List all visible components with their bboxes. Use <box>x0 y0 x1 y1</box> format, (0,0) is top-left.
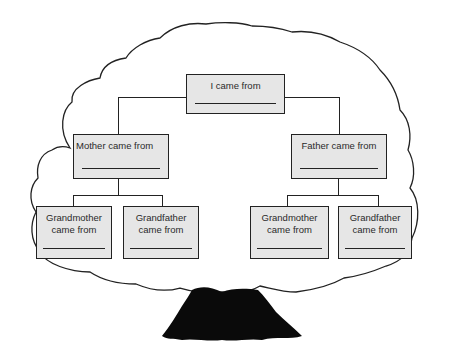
maternal-grandmother-label-1: Grandmother <box>37 207 111 224</box>
maternal-grandfather-label-2: came from <box>124 224 198 236</box>
paternal-grandfather-label-2: came from <box>339 224 411 236</box>
paternal-grandmother-box[interactable]: Grandmother came from <box>250 206 329 259</box>
maternal-grandmother-label-2: came from <box>37 224 111 236</box>
connector-root-right-drop <box>339 97 340 135</box>
maternal-grandmother-blank-line[interactable] <box>43 248 105 249</box>
tree-illustration <box>0 0 457 358</box>
maternal-grandfather-label-1: Grandfather <box>124 207 198 224</box>
connector-root-left-drop <box>118 97 119 135</box>
paternal-grandfather-blank-line[interactable] <box>345 248 406 249</box>
root-box-blank-line[interactable] <box>195 103 277 104</box>
tree-trunk <box>162 287 302 340</box>
father-box-blank-line[interactable] <box>300 168 379 169</box>
root-box-label: I came from <box>187 75 284 92</box>
connector-mother-down <box>118 178 119 196</box>
connector-mother-horizontal <box>73 195 163 196</box>
connector-father-down <box>338 178 339 196</box>
connector-father-horizontal <box>287 195 379 196</box>
root-box-i-came-from[interactable]: I came from <box>186 74 285 114</box>
father-box-label: Father came from <box>292 135 386 152</box>
paternal-grandmother-label-1: Grandmother <box>251 207 328 224</box>
mother-box-label: Mother came from <box>74 135 168 152</box>
maternal-grandfather-box[interactable]: Grandfather came from <box>123 206 199 259</box>
paternal-grandfather-box[interactable]: Grandfather came from <box>338 206 412 259</box>
maternal-grandfather-blank-line[interactable] <box>130 248 192 249</box>
mother-box-blank-line[interactable] <box>82 168 161 169</box>
maternal-grandmother-box[interactable]: Grandmother came from <box>36 206 112 259</box>
mother-box[interactable]: Mother came from <box>73 134 169 179</box>
paternal-grandmother-blank-line[interactable] <box>257 248 322 249</box>
father-box[interactable]: Father came from <box>291 134 387 179</box>
paternal-grandfather-label-1: Grandfather <box>339 207 411 224</box>
paternal-grandmother-label-2: came from <box>251 224 328 236</box>
